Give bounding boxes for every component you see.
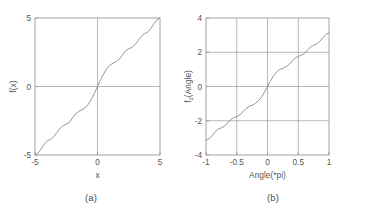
xtick-label-b-3: 0.5: [293, 158, 305, 167]
panel-caption-b: (b): [182, 192, 364, 203]
xtick-label-b-1: -0.5: [230, 158, 245, 167]
ytick-label-a-1: 0: [26, 83, 31, 92]
ytick-label-b-1: -2: [195, 117, 203, 126]
ytick-label-b-0: -4: [195, 151, 203, 160]
xtick-label-a-1: 0: [95, 158, 100, 167]
panel-a: -5 0 5 -5 0 5 x f(x) (a): [0, 0, 182, 219]
xtick-label-b-2: 0: [265, 158, 270, 167]
ytick-label-a-0: -5: [24, 151, 32, 160]
svg-text:f2(Angle): f2(Angle): [183, 70, 194, 103]
ytick-label-b-2: 0: [197, 83, 202, 92]
xtick-label-a-0: -5: [31, 158, 39, 167]
panel-b: -4 -2 0 2 4 -1 -0.5 0 0.5 1 Angle(*pi) f…: [182, 0, 364, 219]
ytick-label-a-2: 5: [26, 14, 31, 23]
yaxis-label-b: f2(Angle): [183, 70, 194, 103]
xaxis-label-a: x: [95, 170, 100, 180]
ytick-label-b-4: 4: [197, 14, 202, 23]
plot-b: -4 -2 0 2 4 -1 -0.5 0 0.5 1 Angle(*pi) f…: [182, 0, 365, 190]
plot-a: -5 0 5 -5 0 5 x f(x): [0, 0, 182, 190]
xtick-label-a-2: 5: [158, 158, 163, 167]
figure-container: -5 0 5 -5 0 5 x f(x) (a): [0, 0, 365, 219]
xtick-label-b-0: -1: [202, 158, 210, 167]
xaxis-label-b: Angle(*pi): [249, 170, 286, 180]
yaxis-label-b-tail: (Angle): [183, 70, 193, 97]
xtick-label-b-4: 1: [327, 158, 332, 167]
ytick-label-b-3: 2: [197, 48, 202, 57]
panel-caption-a: (a): [0, 192, 182, 203]
yaxis-label-a: f(x): [8, 80, 18, 92]
